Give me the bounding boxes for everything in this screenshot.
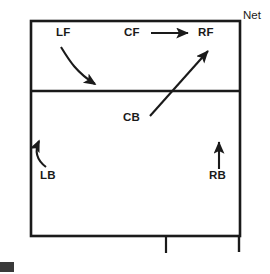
position-label-lf: LF (56, 26, 70, 38)
corner-marker (0, 262, 14, 272)
position-label-cf: CF (124, 26, 140, 38)
position-label-rf: RF (198, 26, 214, 38)
position-label-cb: CB (123, 111, 140, 123)
court-diagram: LF CF RF CB LB RB Net (0, 0, 270, 274)
position-label-lb: LB (40, 169, 56, 181)
court-outline (31, 21, 240, 236)
net-label: Net (243, 9, 261, 21)
position-label-rb: RB (209, 169, 226, 181)
court-graphics (0, 0, 270, 274)
